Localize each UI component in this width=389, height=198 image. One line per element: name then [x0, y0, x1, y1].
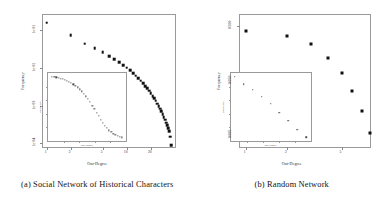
data-point [45, 22, 48, 25]
y-axis-title-random: Frequency [215, 72, 220, 90]
data-point [62, 79, 63, 80]
inset-x-tick [247, 141, 248, 143]
x-axis-tick-label: 1 [244, 150, 246, 154]
x-axis-tick [342, 147, 343, 150]
data-point [81, 91, 82, 92]
data-point [77, 87, 78, 88]
data-point [119, 136, 120, 137]
y-axis-tick [237, 26, 240, 27]
inset-y-tick [46, 100, 48, 101]
data-point [98, 115, 99, 116]
y-axis-tick-label: 0.500 [228, 21, 232, 30]
y-axis-title-social: Frequency [20, 72, 25, 90]
x-axis-tick [246, 147, 247, 150]
data-point [305, 137, 307, 139]
data-point [351, 90, 354, 93]
data-point [68, 81, 69, 82]
caption-social-network: (a) Social Network of Historical Charact… [0, 180, 195, 189]
data-point [261, 96, 263, 98]
panel-social-network: Frequency Out-Degree Frequency Out-Degre… [0, 0, 195, 198]
data-point [84, 42, 87, 45]
x-axis-tick-label: 20 [148, 150, 152, 154]
data-point [102, 122, 103, 123]
data-point [94, 108, 95, 109]
inset-x-axis-title-social: Out-Degree [47, 144, 127, 147]
x-axis-tick-label: 2 [285, 150, 287, 154]
inset-y-tick [229, 127, 231, 128]
y-axis-tick-label: 1e-03 [32, 100, 36, 109]
inset-y-tick [46, 114, 48, 115]
data-point [87, 98, 88, 99]
y-axis-tick-label: 1e-02 [32, 62, 36, 71]
x-axis-tick [71, 147, 72, 150]
inset-y-axis-title-random: Frequency [221, 102, 224, 113]
inset-y-tick [46, 127, 48, 128]
data-point [270, 103, 272, 105]
data-point [279, 112, 281, 114]
x-axis-tick-label: 2 [69, 150, 71, 154]
inset-x-tick [263, 141, 264, 143]
x-axis-title-random: Out-Degree [195, 161, 389, 166]
data-point [66, 80, 67, 81]
x-axis-title-social: Out-Degree [0, 161, 195, 166]
inset-x-tick [64, 141, 65, 143]
data-point [106, 127, 107, 128]
y-axis-tick [40, 143, 43, 144]
data-point [90, 102, 91, 103]
data-point [360, 109, 363, 112]
data-point [69, 34, 72, 37]
data-point [108, 55, 111, 58]
x-axis-tick-label: 5 [101, 150, 103, 154]
data-point [85, 96, 86, 97]
data-point [79, 89, 80, 90]
y-axis-tick [40, 30, 43, 31]
inset-plot-random [230, 72, 312, 142]
data-point [56, 77, 57, 78]
data-point [340, 72, 343, 75]
inset-x-axis-title-random: Out-Degree [230, 144, 312, 147]
data-point [252, 89, 254, 91]
data-point [234, 76, 236, 78]
data-point [286, 34, 289, 37]
data-point [58, 77, 59, 78]
inset-x-tick [279, 141, 280, 143]
data-point [121, 137, 122, 138]
panel-random-network: Frequency Out-Degree Frequency Out-Degre… [195, 0, 389, 198]
data-point [111, 132, 112, 133]
data-point [125, 67, 128, 70]
data-point [169, 135, 172, 138]
inset-y-tick [229, 100, 231, 101]
data-point [117, 135, 118, 136]
data-point [113, 58, 116, 61]
y-axis-tick-label: 0.050 [228, 75, 232, 84]
data-point [71, 82, 72, 83]
data-point [75, 85, 76, 86]
data-point [327, 56, 330, 59]
data-point [109, 130, 110, 131]
data-point [243, 83, 245, 85]
data-point [104, 125, 105, 126]
x-axis-tick-label: 5 [340, 150, 342, 154]
y-axis-tick [40, 68, 43, 69]
data-point [288, 120, 290, 122]
data-point [115, 134, 116, 135]
data-point [101, 51, 104, 54]
data-point [100, 119, 101, 120]
inset-y-tick [229, 114, 231, 115]
inset-y-tick [46, 87, 48, 88]
data-point [168, 130, 171, 133]
y-axis-tick-label: 1e-04 [32, 138, 36, 147]
inset-y-axis-title-social: Frequency [39, 102, 42, 113]
y-axis-tick-label: 1e-01 [32, 25, 36, 34]
inset-x-tick [95, 141, 96, 143]
data-point [52, 76, 53, 77]
x-axis-tick-label: 10 [124, 150, 128, 154]
data-point [64, 79, 65, 80]
inset-x-tick [79, 141, 80, 143]
inset-y-tick [229, 87, 231, 88]
inset-x-tick [110, 141, 111, 143]
data-point [244, 30, 247, 33]
data-point [310, 43, 313, 46]
caption-random-network: (b) Random Network [195, 180, 389, 189]
x-axis-tick-label: 1 [45, 150, 47, 154]
